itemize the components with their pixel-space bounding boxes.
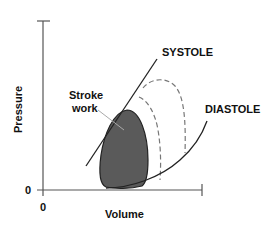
systole-label: SYSTOLE: [162, 46, 213, 58]
y-origin-tick-label: 0: [25, 184, 31, 196]
x-axis-label: Volume: [105, 208, 144, 220]
stroke-work-loop: [100, 110, 148, 188]
dashed-curve-outer: [143, 80, 185, 153]
diastole-label: DIASTOLE: [205, 103, 260, 115]
x-origin-tick-label: 0: [40, 201, 46, 213]
stroke-work-label-line2: work: [71, 102, 99, 114]
pv-loop-diagram: SYSTOLE DIASTOLE Stroke work Volume Pres…: [0, 0, 277, 231]
stroke-work-label-line1: Stroke: [69, 89, 103, 101]
y-axis-label: Pressure: [12, 86, 24, 133]
